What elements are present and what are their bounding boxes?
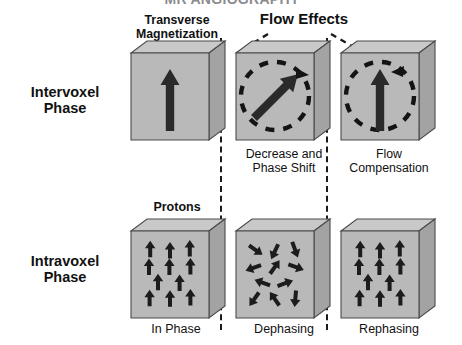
figure-canvas: MR ANGIOGRAPHY Intervoxel Phase Intravox… (0, 0, 462, 345)
cube-intervoxel-decrease-phase-shift (236, 41, 330, 140)
cube-intervoxel-transverse (131, 41, 225, 140)
cube-intravoxel-in-phase (131, 219, 225, 318)
cube-intravoxel-dephasing (236, 219, 330, 318)
cube-intervoxel-flow-compensation (341, 41, 435, 140)
cube-intravoxel-rephasing (341, 219, 435, 318)
diagram-graphics (0, 0, 462, 345)
